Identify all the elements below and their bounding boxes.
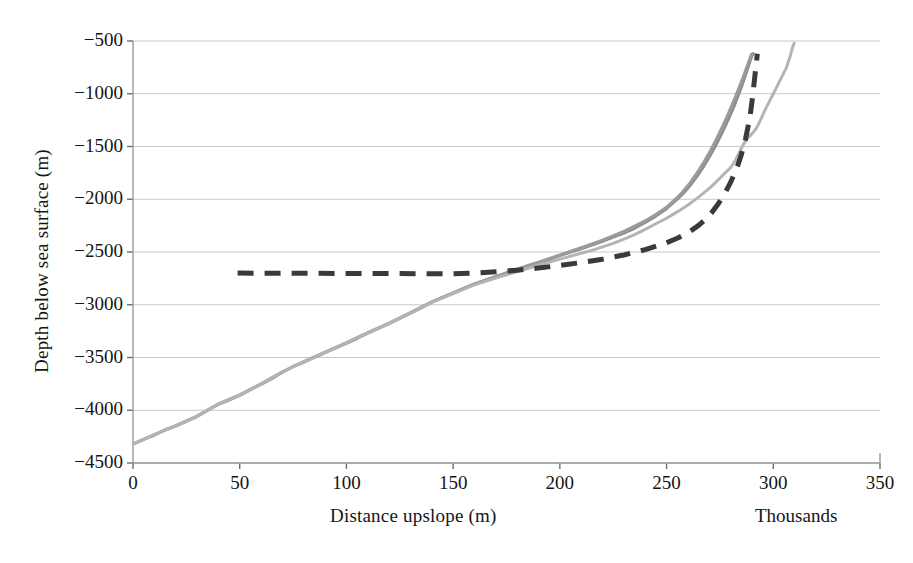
x-axis-unit-note: Thousands (755, 505, 837, 527)
x-tick-label: 0 (103, 472, 163, 494)
series-line-profile-light-gray (133, 42, 795, 444)
y-axis-title: Depth below sea surface (m) (31, 101, 53, 421)
y-tick-label: −2500 (45, 240, 123, 262)
series-line-model-dashed (238, 54, 758, 274)
y-tick-label: −1500 (45, 135, 123, 157)
x-tick-label: 100 (316, 472, 376, 494)
series-line-profile-dark-gray (133, 53, 754, 444)
chart-container: −500−1000−1500−2000−2500−3000−3500−4000−… (0, 0, 913, 563)
x-tick-label: 50 (210, 472, 270, 494)
y-tick-label: −3500 (45, 346, 123, 368)
series-line-profile-mid-gray (133, 53, 752, 444)
x-tick-label: 150 (423, 472, 483, 494)
y-tick-label: −4000 (45, 398, 123, 420)
data-series-group (133, 42, 795, 444)
y-tick-label: −500 (45, 29, 123, 51)
y-tick-label: −1000 (45, 82, 123, 104)
y-tick-label: −3000 (45, 293, 123, 315)
x-tick-label: 200 (530, 472, 590, 494)
x-tick-label: 300 (743, 472, 803, 494)
y-tick-label: −4500 (45, 451, 123, 473)
y-tick-label: −2000 (45, 187, 123, 209)
x-axis-title: Distance upslope (m) (330, 505, 497, 527)
x-tick-label: 350 (850, 472, 910, 494)
x-tick-label: 250 (637, 472, 697, 494)
